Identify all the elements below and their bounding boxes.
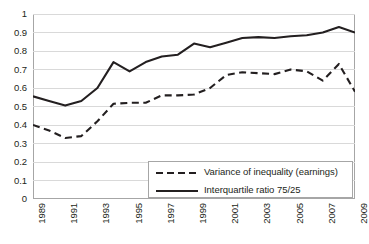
x-tick-label: 1991 bbox=[69, 203, 79, 224]
x-tick-label: 2007 bbox=[327, 203, 337, 224]
legend-item-interquartile: Interquartile ratio 75/25 bbox=[149, 180, 352, 198]
x-tick-label: 2001 bbox=[230, 203, 240, 224]
x-tick-label: 1999 bbox=[198, 203, 208, 224]
legend-label-variance: Variance of inequality (earnings) bbox=[204, 166, 338, 177]
line-chart: 00.10.20.30.40.50.60.70.80.91 1989199119… bbox=[0, 0, 369, 244]
x-tick-label: 1993 bbox=[101, 203, 111, 224]
x-tick-label: 2003 bbox=[262, 203, 272, 224]
x-tick-label: 1997 bbox=[166, 203, 176, 224]
chart-legend: Variance of inequality (earnings) Interq… bbox=[148, 161, 353, 198]
x-tick-label: 1995 bbox=[134, 203, 144, 224]
x-axis-tick-labels: 1989199119931995199719992001200320052007… bbox=[0, 0, 369, 244]
x-tick-label: 2009 bbox=[359, 203, 369, 224]
legend-item-variance: Variance of inequality (earnings) bbox=[149, 162, 352, 180]
legend-swatch-dashed-icon bbox=[155, 165, 199, 177]
legend-label-interquartile: Interquartile ratio 75/25 bbox=[204, 184, 300, 195]
x-tick-label: 2005 bbox=[295, 203, 305, 224]
legend-swatch-solid-icon bbox=[155, 183, 199, 195]
x-tick-label: 1989 bbox=[37, 203, 47, 224]
